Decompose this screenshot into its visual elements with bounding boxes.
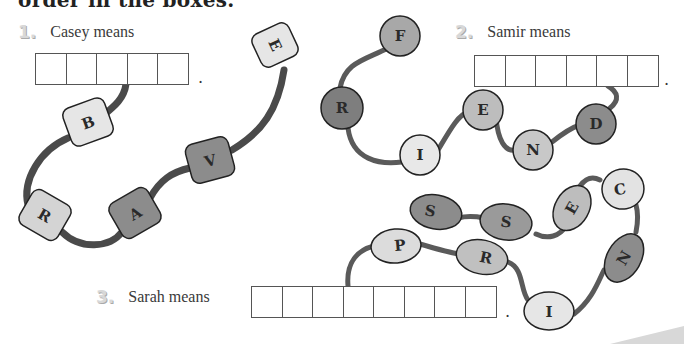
samir-bead-F: F [380, 16, 420, 56]
casey-answer-box-4[interactable] [127, 53, 159, 85]
sarah-answer-box-4[interactable] [343, 286, 375, 318]
sarah-bead-C: C [599, 166, 647, 213]
casey-bead-V: V [184, 135, 237, 185]
samir-answer-box-1[interactable] [474, 55, 506, 87]
casey-answer-box-3[interactable] [96, 53, 128, 85]
samir-answer-box-4[interactable] [566, 55, 598, 87]
casey-answer-box-2[interactable] [66, 53, 98, 85]
samir-bead-D: D [576, 104, 616, 144]
casey-bead-E: E [249, 20, 300, 70]
sarah-answer-boxes [251, 286, 497, 318]
puzzle-number-1: 1. [18, 22, 36, 42]
casey-answer-boxes [35, 53, 189, 85]
casey-period: . [198, 68, 203, 87]
sarah-bead-R: R [453, 235, 511, 279]
samir-bead-E: E [463, 90, 503, 130]
samir-answer-boxes [474, 55, 659, 87]
sarah-answer-box-5[interactable] [373, 286, 405, 318]
sarah-period: . [505, 302, 510, 321]
sarah-bead-E: E [545, 179, 598, 238]
sarah-answer-box-3[interactable] [312, 286, 344, 318]
samir-bead-R: R [321, 87, 363, 129]
samir-answer-box-6[interactable] [627, 55, 659, 87]
svg-text:N: N [526, 141, 540, 159]
svg-text:D: D [589, 115, 602, 133]
samir-answer-box-3[interactable] [535, 55, 567, 87]
sarah-bead-I: I [524, 292, 574, 330]
samir-prompt: 2. Samir means [455, 22, 570, 42]
casey-answer-box-5[interactable] [157, 53, 189, 85]
sarah-bead-S2: S [478, 201, 535, 244]
casey-prompt: 1. Casey means [18, 22, 134, 42]
svg-text:R: R [336, 99, 349, 117]
casey-prompt-label: Casey means [50, 23, 134, 41]
samir-period: . [664, 70, 669, 89]
svg-text:I: I [416, 146, 423, 164]
sarah-answer-box-7[interactable] [434, 286, 466, 318]
svg-text:F: F [395, 27, 406, 45]
samir-prompt-label: Samir means [487, 23, 570, 41]
samir-bead-I: I [400, 135, 440, 175]
sarah-bead-N: N [596, 227, 651, 289]
puzzle-number-3: 3. [96, 287, 114, 307]
sarah-bead-P: P [370, 227, 423, 265]
samir-answer-box-2[interactable] [505, 55, 537, 87]
svg-text:P: P [394, 236, 407, 255]
sarah-answer-box-2[interactable] [282, 286, 314, 318]
svg-text:E: E [477, 101, 488, 119]
sarah-answer-box-1[interactable] [251, 286, 283, 318]
casey-answer-box-1[interactable] [35, 53, 67, 85]
sarah-answer-box-6[interactable] [404, 286, 436, 318]
sarah-prompt-label: Sarah means [128, 288, 209, 306]
sarah-bead-S1: S [407, 191, 464, 234]
svg-text:I: I [545, 303, 552, 321]
samir-answer-box-5[interactable] [596, 55, 628, 87]
sarah-prompt: 3. Sarah means [96, 287, 210, 307]
samir-bead-N: N [513, 130, 553, 170]
page-curl [610, 326, 684, 344]
sarah-answer-box-8[interactable] [465, 286, 497, 318]
puzzle-number-2: 2. [455, 22, 473, 42]
